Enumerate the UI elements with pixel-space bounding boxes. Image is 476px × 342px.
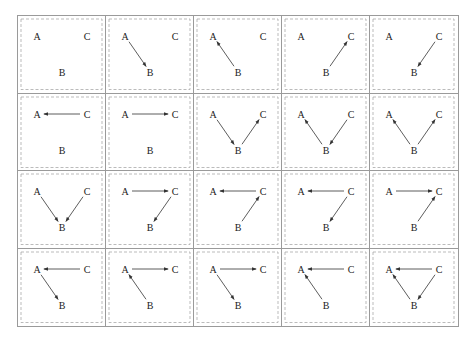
- node-label-B: B: [235, 67, 242, 78]
- node-label-A: A: [385, 186, 393, 197]
- node-label-B: B: [323, 67, 330, 78]
- node-label-B: B: [411, 299, 418, 310]
- node-label-B: B: [411, 144, 418, 155]
- node-label-B: B: [147, 144, 154, 155]
- graph-cell: ACB: [106, 171, 194, 249]
- graph-cell: ACB: [194, 171, 282, 249]
- node-label-C: C: [84, 263, 91, 274]
- arrow-A-to-B: [217, 119, 234, 144]
- node-label-B: B: [147, 67, 154, 78]
- node-label-A: A: [33, 31, 41, 42]
- node-label-C: C: [348, 31, 355, 42]
- graph-cell: ACB: [370, 171, 458, 249]
- arrow-A-to-B: [129, 42, 146, 67]
- node-label-C: C: [172, 31, 179, 42]
- arrow-B-to-A: [393, 119, 410, 144]
- graph-cell: ACB: [282, 249, 370, 327]
- node-label-B: B: [411, 222, 418, 233]
- node-label-A: A: [209, 263, 217, 274]
- node-label-C: C: [172, 186, 179, 197]
- node-label-B: B: [323, 222, 330, 233]
- arrow-C-to-B: [330, 119, 347, 144]
- node-label-B: B: [323, 144, 330, 155]
- node-label-C: C: [348, 108, 355, 119]
- arrow-B-to-C: [242, 197, 259, 222]
- graph-cell: ACB: [282, 94, 370, 172]
- node-label-B: B: [235, 144, 242, 155]
- node-label-C: C: [260, 108, 267, 119]
- node-label-A: A: [385, 31, 393, 42]
- node-label-B: B: [235, 299, 242, 310]
- node-label-C: C: [436, 31, 443, 42]
- node-label-C: C: [84, 186, 91, 197]
- graph-cell: ACB: [106, 94, 194, 172]
- node-label-C: C: [260, 263, 267, 274]
- arrow-C-to-B: [418, 42, 435, 67]
- node-label-C: C: [348, 186, 355, 197]
- arrow-B-to-A: [305, 119, 322, 144]
- node-label-A: A: [121, 186, 129, 197]
- node-label-A: A: [209, 31, 217, 42]
- arrow-B-to-A: [393, 274, 410, 299]
- arrow-A-to-B: [217, 274, 234, 299]
- graph-cell: ACB: [18, 171, 106, 249]
- node-label-B: B: [147, 299, 154, 310]
- node-label-B: B: [323, 299, 330, 310]
- arrow-B-to-A: [129, 274, 146, 299]
- arrow-A-to-B: [41, 197, 58, 222]
- node-label-A: A: [33, 186, 41, 197]
- graph-cell: ACB: [194, 249, 282, 327]
- graph-cell: ACB: [282, 16, 370, 94]
- node-label-C: C: [172, 108, 179, 119]
- node-label-A: A: [297, 31, 305, 42]
- graph-cell: ACB: [106, 249, 194, 327]
- arrow-B-to-A: [305, 274, 322, 299]
- arrow-B-to-C: [418, 197, 435, 222]
- graph-cell: ACB: [282, 171, 370, 249]
- node-label-B: B: [59, 144, 66, 155]
- node-label-A: A: [297, 186, 305, 197]
- arrow-C-to-B: [330, 197, 347, 222]
- arrow-B-to-C: [418, 119, 435, 144]
- node-label-B: B: [147, 222, 154, 233]
- graph-cell: ACB: [194, 94, 282, 172]
- arrow-C-to-B: [418, 274, 435, 299]
- node-label-A: A: [297, 263, 305, 274]
- graph-cell: ACB: [370, 94, 458, 172]
- node-label-A: A: [33, 108, 41, 119]
- graph-cell: ACB: [18, 94, 106, 172]
- arrow-A-to-B: [41, 274, 58, 299]
- node-label-B: B: [411, 67, 418, 78]
- node-label-B: B: [235, 222, 242, 233]
- arrow-C-to-B: [66, 197, 83, 222]
- arrow-B-to-C: [242, 119, 259, 144]
- node-label-A: A: [121, 263, 129, 274]
- node-label-A: A: [121, 31, 129, 42]
- node-label-C: C: [436, 263, 443, 274]
- node-label-C: C: [436, 108, 443, 119]
- arrow-C-to-B: [154, 197, 171, 222]
- node-label-C: C: [84, 108, 91, 119]
- node-label-A: A: [385, 108, 393, 119]
- node-label-A: A: [33, 263, 41, 274]
- node-label-A: A: [209, 108, 217, 119]
- node-label-C: C: [260, 186, 267, 197]
- graph-cell: ACB: [370, 16, 458, 94]
- node-label-A: A: [385, 263, 393, 274]
- node-label-C: C: [348, 263, 355, 274]
- node-label-B: B: [59, 67, 66, 78]
- node-label-B: B: [59, 299, 66, 310]
- arrow-B-to-C: [330, 42, 347, 67]
- node-label-C: C: [436, 186, 443, 197]
- node-label-C: C: [84, 31, 91, 42]
- causal-graph-grid: ACBACBACBACBACBACBACBACBACBACBACBACBACBA…: [17, 15, 459, 327]
- arrow-B-to-A: [217, 42, 234, 67]
- node-label-C: C: [172, 263, 179, 274]
- graph-cell: ACB: [370, 249, 458, 327]
- graph-cell: ACB: [18, 249, 106, 327]
- graph-cell: ACB: [18, 16, 106, 94]
- node-label-B: B: [59, 222, 66, 233]
- node-label-A: A: [297, 108, 305, 119]
- node-label-C: C: [260, 31, 267, 42]
- node-label-A: A: [121, 108, 129, 119]
